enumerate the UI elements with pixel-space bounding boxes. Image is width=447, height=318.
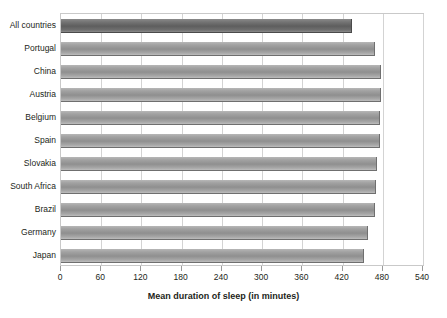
x-tick-360 [301, 266, 302, 271]
x-tick-label-480: 480 [375, 272, 389, 282]
bar-row [61, 180, 423, 194]
y-axis-label-south-africa: South Africa [10, 181, 56, 191]
x-tick-120 [140, 266, 141, 271]
x-tick-240 [221, 266, 222, 271]
x-tick-label-120: 120 [133, 272, 147, 282]
x-tick-480 [382, 266, 383, 271]
x-tick-label-0: 0 [58, 272, 63, 282]
y-axis-label-spain: Spain [34, 135, 56, 145]
bar-chart: All countriesPortugalChinaAustriaBelgium… [0, 0, 447, 318]
x-tick-label-240: 240 [214, 272, 228, 282]
bar-row [61, 88, 423, 102]
bar-china [61, 65, 381, 79]
bar-row [61, 111, 423, 125]
bar-row [61, 157, 423, 171]
x-tick-60 [100, 266, 101, 271]
bar-row [61, 42, 423, 56]
x-tick-420 [342, 266, 343, 271]
y-axis-label-china: China [34, 66, 56, 76]
plot-area [60, 13, 424, 266]
bar-germany [61, 226, 368, 240]
bar-belgium [61, 111, 380, 125]
y-axis-label-portugal: Portugal [24, 43, 56, 53]
x-tick-label-300: 300 [254, 272, 268, 282]
y-axis-label-germany: Germany [21, 227, 56, 237]
x-tick-label-180: 180 [174, 272, 188, 282]
y-axis-label-japan: Japan [33, 250, 56, 260]
bar-row [61, 134, 423, 148]
x-tick-label-420: 420 [334, 272, 348, 282]
x-tick-0 [60, 266, 61, 271]
bar-slovakia [61, 157, 377, 171]
bar-row [61, 19, 423, 33]
bar-row [61, 65, 423, 79]
x-tick-label-60: 60 [95, 272, 104, 282]
bar-row [61, 249, 423, 263]
bar-austria [61, 88, 381, 102]
x-tick-label-360: 360 [294, 272, 308, 282]
y-axis-label-belgium: Belgium [25, 112, 56, 122]
bar-japan [61, 249, 364, 263]
y-axis-label-all-countries: All countries [10, 20, 56, 30]
x-tick-180 [181, 266, 182, 271]
bars-layer [61, 14, 423, 265]
y-axis-label-brazil: Brazil [35, 204, 56, 214]
x-tick-540 [422, 266, 423, 271]
bar-brazil [61, 203, 375, 217]
bar-row [61, 226, 423, 240]
gridline-540 [423, 14, 424, 265]
bar-portugal [61, 42, 375, 56]
bar-all-countries [61, 19, 352, 33]
bar-row [61, 203, 423, 217]
x-axis-title: Mean duration of sleep (in minutes) [0, 291, 447, 301]
x-tick-label-540: 540 [415, 272, 429, 282]
bar-spain [61, 134, 380, 148]
bar-south-africa [61, 180, 376, 194]
y-axis-label-slovakia: Slovakia [24, 158, 56, 168]
y-axis-label-austria: Austria [30, 89, 56, 99]
x-tick-300 [261, 266, 262, 271]
